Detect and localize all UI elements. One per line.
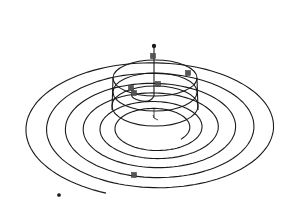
square-marker xyxy=(132,173,137,178)
triad-x-axis xyxy=(154,118,158,120)
vertical-axis xyxy=(152,44,155,96)
diagram-svg xyxy=(0,0,296,215)
square-marker xyxy=(156,82,161,87)
spiral-end-dot xyxy=(58,194,61,197)
square-marker xyxy=(186,71,191,76)
square-marker xyxy=(132,91,137,96)
spiral-path xyxy=(26,63,274,193)
square-marker xyxy=(151,54,156,59)
square-marker xyxy=(129,86,134,91)
spiral-helix-diagram xyxy=(0,0,296,215)
axis-top-dot xyxy=(152,44,155,47)
helix-side xyxy=(197,78,198,110)
flat-spiral xyxy=(26,63,274,197)
helix-side xyxy=(112,78,113,110)
